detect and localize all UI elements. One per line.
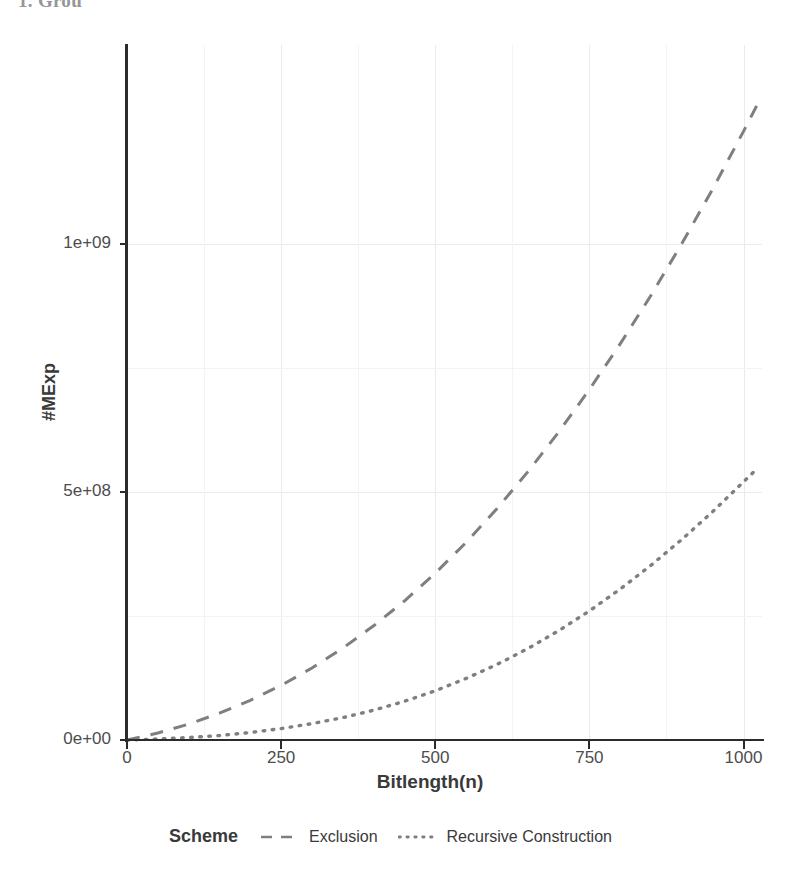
y-axis-line [125,44,128,742]
y-axis-title: #MExp [39,363,60,421]
legend-key-dotted [398,828,438,846]
y-tick-label: 5e+08 [41,481,111,501]
legend-entries: ExclusionRecursive Construction [260,828,632,846]
x-tick-label: 250 [241,748,321,768]
series-line-2 [127,467,758,740]
x-axis-title: Bitlength(n) [377,771,484,793]
y-tick-label: 1e+09 [41,233,111,253]
legend-label: Exclusion [309,828,377,846]
x-tick-label: 500 [395,748,475,768]
legend-entry[interactable]: Exclusion [260,828,377,846]
y-tick-label: 0e+00 [41,729,111,749]
series-layer [127,45,762,740]
chart-figure: 0e+005e+081e+09 02505007501000 #MExp Bit… [0,0,801,879]
x-tick-label: 750 [549,748,629,768]
x-tick-label: 1000 [704,748,784,768]
legend-key-dashed [260,828,300,846]
x-tick-label: 0 [87,748,167,768]
y-tick-mark [120,491,127,493]
legend-label: Recursive Construction [447,828,612,846]
chart-legend: Scheme ExclusionRecursive Construction [0,826,801,847]
y-tick-mark [120,243,127,245]
series-line-1 [127,103,758,740]
legend-title: Scheme [169,826,238,847]
legend-entry[interactable]: Recursive Construction [398,828,612,846]
plot-panel [127,45,762,740]
x-axis-line [127,739,764,741]
